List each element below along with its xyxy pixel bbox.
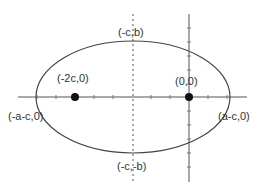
ellipse-diagram: (-c,b) (-c,-b) (-a-c,0) (a-c,0) (-2c,0) … — [0, 0, 260, 188]
label-right-vertex: (a-c,0) — [218, 110, 250, 122]
label-origin: (0,0) — [175, 75, 198, 87]
label-bottom-vertex: (-c,-b) — [117, 160, 146, 172]
label-top-vertex: (-c,b) — [118, 26, 144, 38]
origin-point — [185, 93, 193, 101]
label-left-vertex: (-a-c,0) — [8, 110, 43, 122]
label-left-focus: (-2c,0) — [57, 72, 89, 84]
focus-left-point — [71, 93, 79, 101]
